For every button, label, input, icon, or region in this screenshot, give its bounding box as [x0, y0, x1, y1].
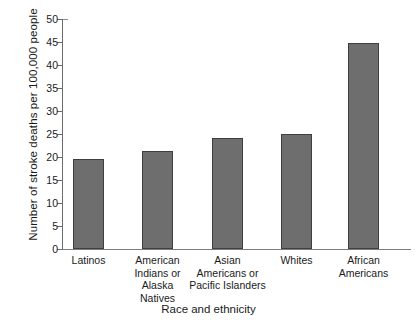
y-tick-label: 0 [36, 244, 58, 255]
x-tick-label: African Americans [324, 254, 404, 279]
x-tick-label: Whites [262, 254, 332, 267]
y-tick-label: 40 [36, 60, 58, 71]
x-axis-line [62, 249, 411, 250]
y-tick-label: 45 [36, 37, 58, 48]
y-axis-line [62, 19, 63, 249]
y-tick-label: 15 [36, 175, 58, 186]
x-axis-title: Race and ethnicity [0, 303, 417, 315]
y-tick-label: 50 [36, 14, 58, 25]
y-tick-label: 20 [36, 152, 58, 163]
bar [348, 43, 379, 249]
plot-area: 05101520253035404550 LatinosAmerican Ind… [62, 19, 411, 249]
bar [73, 159, 104, 249]
y-tick-label: 30 [36, 106, 58, 117]
bar [281, 134, 312, 249]
bar [142, 151, 173, 249]
bar [212, 138, 243, 249]
y-tick-label: 10 [36, 198, 58, 209]
y-tick-label: 35 [36, 83, 58, 94]
y-tick-label: 25 [36, 129, 58, 140]
x-tick-label: Latinos [54, 254, 124, 267]
bar-chart: Number of stroke deaths per 100,000 peop… [0, 0, 417, 325]
y-tick-label: 5 [36, 221, 58, 232]
